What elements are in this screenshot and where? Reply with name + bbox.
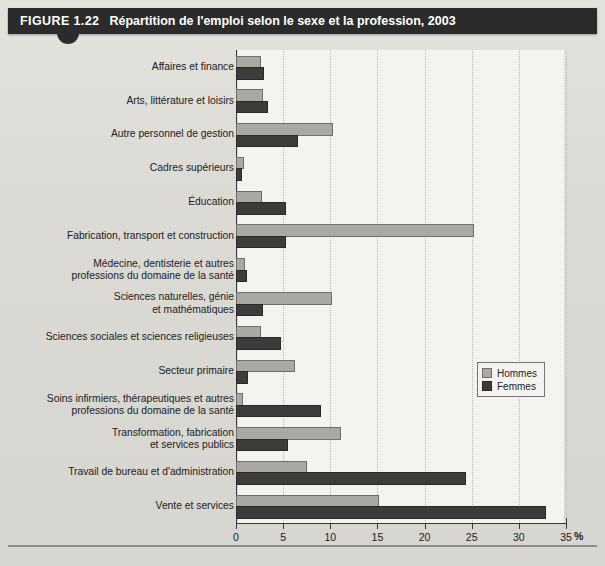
legend-item-hommes: Hommes [482,367,537,379]
x-tick-label-15: 15 [372,531,384,543]
axis-cap-right [566,518,567,524]
x-tick-10 [330,523,331,529]
bar-femmes [236,371,248,384]
bar-femmes [236,101,268,114]
bar-femmes [236,67,264,80]
legend-swatch-femmes [482,381,492,391]
figure-title: Répartition de l'emploi selon le sexe et… [109,14,455,28]
bar-row: Médecine, dentisterie et autres professi… [8,253,597,287]
figure-container: FIGURE 1.22 Répartition de l'emploi selo… [0,0,605,566]
bar-femmes [236,168,242,181]
chart-legend: Hommes Femmes [477,362,545,397]
bar-femmes [236,405,321,418]
category-label: Transformation, fabrication et services … [16,426,234,450]
category-label: Arts, littérature et loisirs [16,95,234,107]
x-tick-label-0: 0 [233,531,239,543]
bar-row: Cadres supérieurs [8,151,597,185]
category-label: Sciences naturelles, génie et mathématiq… [16,291,234,315]
category-label: Secteur primaire [16,365,234,377]
x-tick-label-25: 25 [466,531,478,543]
bar-row: Sciences naturelles, génie et mathématiq… [8,287,597,321]
category-label: Cadres supérieurs [16,162,234,174]
bar-femmes [236,337,281,350]
category-label: Fabrication, transport et construction [16,230,234,242]
x-tick-25 [472,523,473,529]
bottom-rule [8,545,597,547]
x-tick-label-10: 10 [324,531,336,543]
x-tick-label-20: 20 [419,531,431,543]
axis-cap-left [236,518,237,524]
legend-label-hommes: Hommes [497,368,537,379]
plot-area: Affaires et financeArts, littérature et … [8,44,597,538]
figure-number: FIGURE 1.22 [20,14,99,28]
bar-row: Sciences sociales et sciences religieuse… [8,320,597,354]
category-label: Soins infirmiers, thérapeutiques et autr… [16,393,234,417]
bar-femmes [236,506,546,519]
title-notch-decoration [57,33,79,44]
category-label: Médecine, dentisterie et autres professi… [16,257,234,281]
category-label: Sciences sociales et sciences religieuse… [16,331,234,343]
x-tick-label-5: 5 [280,531,286,543]
x-tick-20 [425,523,426,529]
x-tick-30 [519,523,520,529]
x-tick-label-30: 30 [513,531,525,543]
bar-row: Transformation, fabrication et services … [8,422,597,456]
legend-item-femmes: Femmes [482,380,537,392]
category-label: Travail de bureau et d'administration [16,466,234,478]
legend-label-femmes: Femmes [497,381,536,392]
bar-femmes [236,202,286,215]
category-label: Vente et services [16,500,234,512]
bar-femmes [236,270,247,283]
x-tick-label-35: 35 [560,531,572,543]
category-label: Éducation [16,196,234,208]
x-tick-15 [377,523,378,529]
bar-row: Vente et services [8,489,597,523]
bar-row: Fabrication, transport et construction [8,219,597,253]
x-tick-5 [283,523,284,529]
legend-swatch-hommes [482,368,492,378]
bar-row: Arts, littérature et loisirs [8,84,597,118]
bar-femmes [236,135,298,148]
x-axis-line [236,523,566,524]
bar-femmes [236,439,288,452]
bar-femmes [236,236,286,249]
bar-row: Travail de bureau et d'administration [8,455,597,489]
x-axis-unit-label: % [574,530,583,542]
bar-rows: Affaires et financeArts, littérature et … [8,50,597,523]
category-label: Affaires et finance [16,61,234,73]
bar-row: Affaires et finance [8,50,597,84]
bar-femmes [236,304,263,317]
bar-femmes [236,472,466,485]
bar-row: Éducation [8,185,597,219]
bar-row: Autre personnel de gestion [8,118,597,152]
category-label: Autre personnel de gestion [16,128,234,140]
figure-title-bar: FIGURE 1.22 Répartition de l'emploi selo… [8,8,597,34]
